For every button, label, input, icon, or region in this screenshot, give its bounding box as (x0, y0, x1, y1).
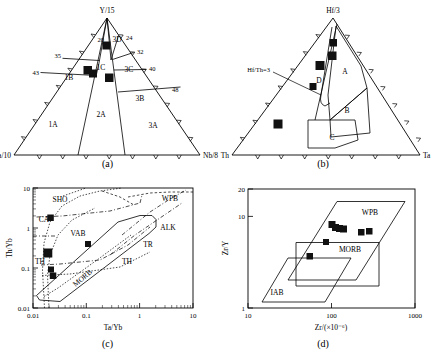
field-label-iab-d: IAB (271, 288, 284, 297)
xtick-0.1-c: 0.1 (82, 312, 91, 320)
panel-d: 1 10 20 10 100 1000 Zr/(×10⁻⁶) Zr/Y WPB … (215, 175, 431, 355)
yaxis-title-d: Zr/Y (221, 240, 230, 255)
data-point (328, 52, 337, 61)
tick-number-43: 43 (33, 69, 40, 76)
data-point (274, 120, 283, 129)
tick-number-48: 48 (172, 86, 179, 93)
panel-a: Y/15 La/10 Nb/8 1A 1B 1C 2A 3A 3B 3C 3D … (0, 0, 215, 175)
field-label-3a: 3A (148, 121, 158, 130)
tick-number-40: 40 (149, 65, 156, 72)
field-label-sho-c: SHO (52, 195, 68, 204)
xaxis-title-d: Zr/(×10⁻⁶) (315, 323, 348, 332)
field-label-wpb-d: WPB (362, 208, 378, 217)
panel-c-svg: 0.01 0.1 1 10 0.01 0.1 1 10 Ta/Yb Th/Yb … (0, 175, 215, 355)
data-point (310, 83, 317, 90)
data-point (50, 273, 57, 280)
wpb-field-d (288, 202, 405, 281)
field-b-outline-b (330, 88, 370, 137)
xtick-1000-d: 1000 (408, 312, 423, 320)
ytick-20-d: 20 (238, 186, 246, 194)
field-label-wpb-c: WPB (162, 194, 178, 203)
field-label-1a: 1A (48, 120, 58, 129)
panel-c: 0.01 0.1 1 10 0.01 0.1 1 10 Ta/Yb Th/Yb … (0, 175, 215, 355)
tick-number-35: 35 (55, 52, 62, 59)
yaxis-title-c: Th/Yb (5, 238, 14, 258)
xaxis-title-c: Ta/Yb (104, 323, 123, 332)
ytick-0.1-c: 0.1 (21, 265, 30, 273)
tick-number-24: 24 (126, 34, 133, 41)
data-point (340, 226, 347, 233)
xtick-0.01-c: 0.01 (27, 312, 40, 320)
data-points-a (84, 42, 114, 83)
data-point (103, 42, 111, 50)
field-label-tr-c: TR (143, 240, 153, 249)
data-points-b (274, 39, 338, 129)
data-points-c (43, 215, 91, 280)
data-point (48, 267, 54, 273)
field-label-3c: 3C (125, 65, 134, 74)
field-label-1c: 1C (97, 63, 106, 72)
field-label-d-b: D (316, 76, 322, 85)
figure-root: Y/15 La/10 Nb/8 1A 1B 1C 2A 3A 3B 3C 3D … (0, 0, 431, 355)
data-point (316, 61, 325, 70)
field-label-1b: 1B (65, 73, 74, 82)
field-label-morb-d: MORB (339, 245, 361, 254)
data-point (47, 215, 54, 222)
data-point (358, 229, 365, 236)
field-label-2a: 2A (96, 110, 106, 119)
field-label-vab-c: VAB (71, 229, 86, 238)
vertex-label-top-b: Hf/3 (326, 6, 340, 15)
field-label-3b: 3B (136, 94, 145, 103)
data-point (366, 228, 373, 235)
data-point (307, 253, 314, 260)
panel-a-caption: (a) (0, 158, 215, 169)
field-label-a-b: A (342, 67, 348, 76)
field-label-alk-c: ALK (160, 223, 176, 232)
data-point (105, 74, 114, 83)
tick-number-32: 32 (137, 48, 144, 55)
field-label-3d: 3D (112, 35, 122, 44)
field-outlines-dotted-c (42, 188, 150, 308)
morb-band-c (37, 216, 157, 302)
field-boundaries-a (41, 18, 181, 155)
xtick-10-d: 10 (245, 312, 253, 320)
minor-ticks-x-c (49, 305, 190, 308)
panel-d-caption: (d) (215, 338, 431, 349)
vertex-label-top-a: Y/15 (100, 6, 115, 15)
morb-field-d (296, 243, 379, 287)
data-point (330, 39, 338, 47)
field-outlines-dashed-c (102, 191, 193, 205)
data-point (85, 241, 91, 247)
xtick-10-c: 10 (190, 312, 198, 320)
field-label-th-right-c: TH (122, 257, 133, 266)
field-label-b-b: B (344, 106, 349, 115)
panel-d-svg: 1 10 20 10 100 1000 Zr/(×10⁻⁶) Zr/Y WPB … (215, 175, 431, 355)
xtick-100-d: 100 (326, 312, 337, 320)
panel-c-caption: (c) (0, 338, 215, 349)
panel-b: Hf/3 Th Ta A B C D Hf/Th=3 (b) (215, 0, 431, 175)
annotation-label-hf-th: Hf/Th=3 (247, 66, 270, 73)
ytick-10-d: 10 (238, 213, 246, 221)
panel-b-svg: Hf/3 Th Ta A B C D Hf/Th=3 (215, 0, 431, 175)
data-point (89, 70, 97, 78)
data-point (323, 239, 329, 245)
panel-b-caption: (b) (215, 158, 431, 169)
xtick-1-c: 1 (138, 312, 142, 320)
ytick-10-c: 10 (23, 185, 31, 193)
ytick-1-c: 1 (27, 225, 31, 233)
data-point (43, 249, 52, 258)
panel-a-svg: Y/15 La/10 Nb/8 1A 1B 1C 2A 3A 3B 3C 3D … (0, 0, 215, 175)
field-label-c-b: C (329, 133, 334, 142)
ternary-outline-b (232, 18, 420, 155)
field-label-th-left-c: TH (35, 257, 46, 266)
